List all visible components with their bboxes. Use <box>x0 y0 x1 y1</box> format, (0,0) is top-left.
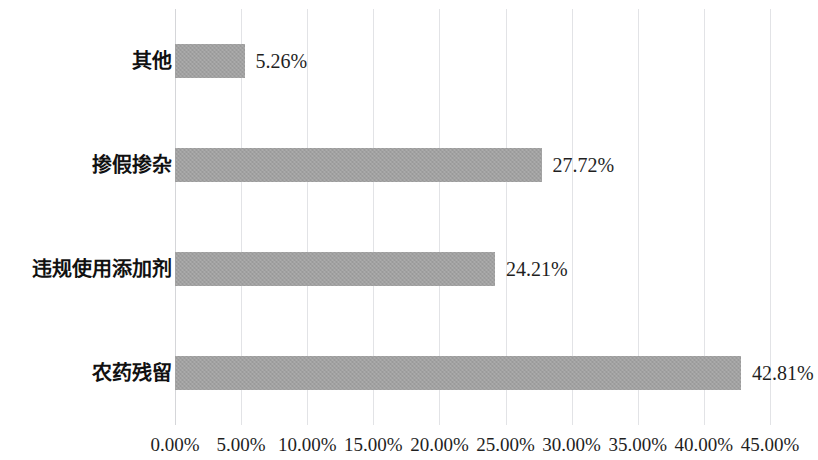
category-label-农药残留: 农药残留 <box>0 359 172 387</box>
bar-农药残留[interactable] <box>175 356 741 390</box>
bar-value-label: 5.26% <box>245 47 308 75</box>
plot-area: 5.26%27.72%24.21%42.81% <box>175 9 770 425</box>
bar-value-label: 27.72% <box>542 151 615 179</box>
bar-value-label: 24.21% <box>495 255 568 283</box>
x-tick-label: 45.00% <box>710 432 818 458</box>
bar-掺假掺杂[interactable] <box>175 148 542 182</box>
category-label-违规使用添加剂: 违规使用添加剂 <box>0 255 172 283</box>
bar-违规使用添加剂[interactable] <box>175 252 495 286</box>
bar-value-label: 42.81% <box>741 359 814 387</box>
category-label-其他: 其他 <box>0 47 172 75</box>
category-label-掺假掺杂: 掺假掺杂 <box>0 151 172 179</box>
x-axis-tick-labels: 0.00%5.00%10.00%15.00%20.00%25.00%30.00%… <box>0 432 812 458</box>
bar-其他[interactable] <box>175 44 245 78</box>
